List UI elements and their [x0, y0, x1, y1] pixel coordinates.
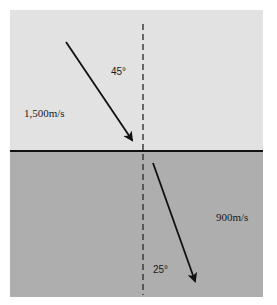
- incident-ray-arrow: [66, 42, 132, 140]
- incident-angle-label: 45°: [111, 66, 126, 77]
- refracted-angle-label: 25°: [153, 264, 168, 275]
- upper-velocity-label: 1,500m/s: [24, 107, 65, 119]
- lower-velocity-label: 900m/s: [216, 211, 248, 223]
- diagram-lines: [0, 0, 277, 305]
